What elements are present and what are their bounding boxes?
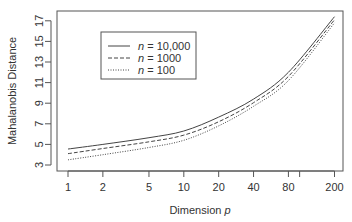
y-tick-label: 5 <box>33 141 45 147</box>
legend-label: n = 100 <box>138 64 175 76</box>
x-tick-label: 40 <box>247 181 259 193</box>
plot-box <box>57 11 343 171</box>
chart-svg: 12510204080200 357911131517 n = 10,000n … <box>0 0 352 222</box>
x-tick-label: 2 <box>100 181 106 193</box>
y-tick-label: 7 <box>33 121 45 127</box>
y-tick-label: 15 <box>33 35 45 47</box>
legend-label: n = 1000 <box>138 52 181 64</box>
x-axis-title: Dimension p <box>169 204 230 216</box>
y-axis: 357911131517 <box>33 15 51 168</box>
x-axis: 12510204080200 <box>65 171 344 193</box>
y-axis-title: Mahalanobis Distance <box>6 37 18 145</box>
x-axis-title-var: p <box>223 204 230 216</box>
x-tick-label: 80 <box>282 181 294 193</box>
x-tick-label: 20 <box>213 181 225 193</box>
y-tick-label: 13 <box>33 56 45 68</box>
y-tick-label: 3 <box>33 162 45 168</box>
x-tick-label: 10 <box>178 181 190 193</box>
x-tick-label: 200 <box>325 181 343 193</box>
legend: n = 10,000n = 1000n = 100 <box>101 32 196 79</box>
legend-label: n = 10,000 <box>138 40 190 52</box>
x-tick-label: 1 <box>65 181 71 193</box>
y-tick-label: 17 <box>33 15 45 27</box>
x-tick-label: 5 <box>146 181 152 193</box>
y-tick-label: 9 <box>33 100 45 106</box>
y-tick-label: 11 <box>33 77 45 88</box>
